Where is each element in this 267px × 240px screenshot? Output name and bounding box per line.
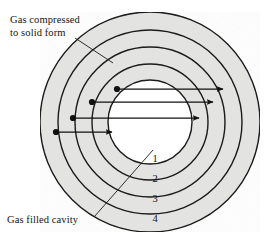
- arrow-4-origin-dot: [53, 129, 59, 135]
- label-gas-compressed: Gas compressed to solid form: [10, 14, 80, 39]
- figure-container: Gas compressed to solid form Gas filled …: [0, 0, 267, 240]
- ring-number-2: 2: [147, 173, 163, 184]
- arrow-1-origin-dot: [114, 86, 120, 92]
- ring-number-1: 1: [147, 153, 163, 164]
- label-gas-filled-cavity: Gas filled cavity: [7, 214, 78, 227]
- arrow-2-origin-dot: [89, 99, 95, 105]
- arrow-3-origin-dot: [70, 115, 76, 121]
- label-gas-compressed-line2: to solid form: [10, 27, 80, 40]
- ring-number-4: 4: [147, 213, 163, 224]
- label-gas-compressed-line1: Gas compressed: [10, 14, 80, 27]
- gas-filled-cavity: [108, 80, 192, 164]
- ring-number-3: 3: [147, 193, 163, 204]
